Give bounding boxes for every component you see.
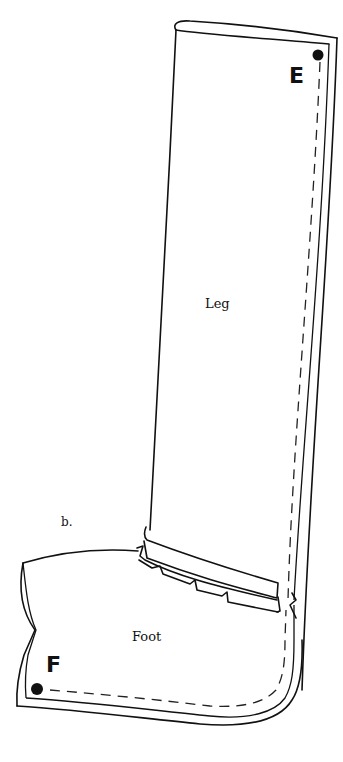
point-e-dot (313, 50, 324, 61)
point-e: E (289, 50, 324, 89)
point-f: F (31, 652, 61, 695)
foot-label: Foot (132, 629, 162, 644)
sewing-pattern-diagram: E F Leg Foot b. (0, 0, 343, 762)
point-e-label: E (289, 63, 304, 88)
seam-band (137, 527, 296, 618)
leg-label: Leg (205, 296, 230, 311)
point-f-label: F (46, 652, 61, 677)
figure-label: b. (61, 515, 73, 529)
point-f-dot (31, 683, 43, 695)
